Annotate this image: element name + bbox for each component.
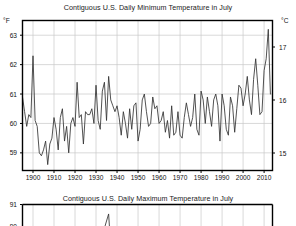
plot-area-minimum <box>0 0 296 190</box>
plot-area-maximum <box>0 190 296 226</box>
y-tick-label-f-59: 59 <box>3 149 17 156</box>
y-tick-label-f-62: 62 <box>3 61 17 68</box>
chart-maximum-temperature: Contiguous U.S. Daily Maximum Temperatur… <box>0 190 296 226</box>
chart-minimum-temperature: Contiguous U.S. Daily Minimum Temperatur… <box>0 0 296 190</box>
y-tick-label-max-91: 91 <box>3 201 17 208</box>
y-tick-label-c-15: 15 <box>279 150 295 157</box>
x-tick-label-2010: 2010 <box>252 174 276 181</box>
y-tick-label-max-90: 90 <box>3 223 17 226</box>
y-tick-label-c-17: 17 <box>279 44 295 51</box>
y-tick-label-f-63: 63 <box>3 32 17 39</box>
temperature-charts-page: Contiguous U.S. Daily Minimum Temperatur… <box>0 0 296 226</box>
y-tick-label-f-60: 60 <box>3 120 17 127</box>
y-tick-label-c-16: 16 <box>279 97 295 104</box>
y-tick-label-f-61: 61 <box>3 91 17 98</box>
